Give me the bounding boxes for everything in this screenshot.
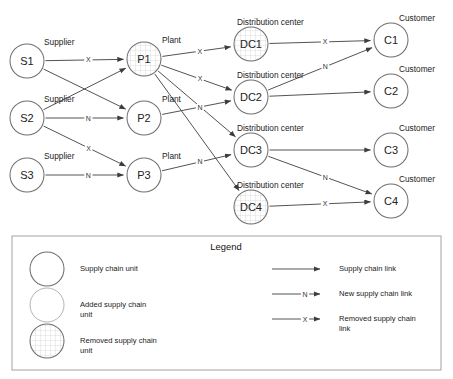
legend-unit-label: unit	[80, 310, 93, 319]
legend-link-label: Removed supply chain	[339, 314, 416, 323]
legend-panel: Legend Supply chain unitAdded supply cha…	[0, 0, 453, 379]
legend-link-label: New supply chain link	[339, 289, 412, 298]
diagram-canvas: XNXNXXXNNXNNX SupplierS1SupplierS2Suppli…	[0, 0, 453, 379]
legend-unit-label: Supply chain unit	[80, 264, 139, 273]
legend-unit-label: unit	[80, 346, 93, 355]
legend-link-mark: N	[302, 291, 307, 298]
legend-unit-label: Added supply chain	[80, 300, 146, 309]
legend-title: Legend	[210, 241, 241, 252]
legend-link-label: Supply chain link	[339, 264, 396, 273]
legend-border	[12, 236, 441, 370]
legend-link-mark: X	[303, 316, 308, 323]
legend-link-label: link	[339, 324, 351, 333]
legend-unit-icon-removed[interactable]	[30, 324, 64, 358]
legend-unit-label: Removed supply chain	[80, 336, 157, 345]
